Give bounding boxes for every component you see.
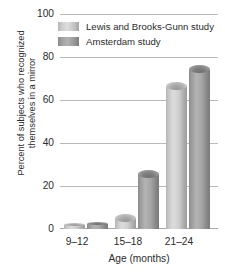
legend-swatch-icon-amsterdam [58,37,79,46]
bar-amsterdam-15-18 [138,170,159,229]
gridline-100 [60,14,218,15]
legend-swatch-icon-lewis [58,22,79,31]
bar-cap [189,65,210,73]
bar-lewis-15-18 [115,214,136,229]
gridline-80 [60,57,218,58]
x-axis-title: Age (months) [60,253,218,264]
bar-cap [64,223,85,226]
y-axis-tick-40: 40 [24,137,54,148]
bar-lewis-21-24 [166,82,187,229]
bar-body [166,86,187,229]
bar-cap [115,214,136,222]
bar-cap [166,82,187,90]
y-axis-tick-100: 100 [24,8,54,19]
legend-item-lewis: Lewis and Brooks-Gunn study [58,20,214,33]
y-axis-tick-20: 20 [24,180,54,191]
bar-amsterdam-9-12 [87,222,108,229]
bar-amsterdam-21-24 [189,65,210,229]
y-axis-tick-0: 0 [24,223,54,234]
bar-body [189,69,210,229]
bar-lewis-9-12 [64,223,85,229]
legend-label-amsterdam: Amsterdam study [86,36,161,47]
chart-legend: Lewis and Brooks-Gunn study Amsterdam st… [58,20,214,50]
chart-figure: Percent of subjects who recognized thems… [0,0,225,275]
legend-label-lewis: Lewis and Brooks-Gunn study [86,21,214,32]
y-axis-tick-80: 80 [24,51,54,62]
legend-item-amsterdam: Amsterdam study [58,35,214,48]
bar-cap [138,170,159,178]
y-axis-tick-60: 60 [24,94,54,105]
bar-body [138,174,159,229]
x-axis-tick-21-24: 21–24 [149,236,209,247]
bar-cap [87,222,108,225]
